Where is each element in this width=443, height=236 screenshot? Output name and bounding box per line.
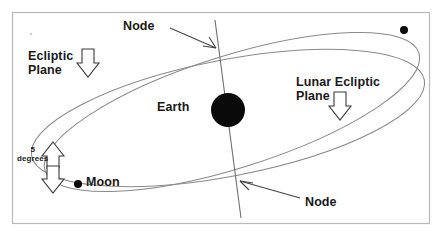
- moon-body: [74, 180, 82, 188]
- label-lunar-ecliptic-plane: Lunar Ecliptic Plane: [296, 76, 380, 103]
- paper-speck: [30, 33, 33, 36]
- lunar-orbit-diagram: Node Node Ecliptic Plane Lunar Ecliptic …: [0, 0, 443, 236]
- diagram-canvas: [0, 0, 443, 236]
- label-ecliptic-plane: Ecliptic Plane: [28, 50, 73, 77]
- label-earth: Earth: [157, 101, 189, 115]
- orbit-marker-point: [400, 26, 408, 34]
- node-bottom-leader-arrowhead: [240, 181, 253, 190]
- label-inclination-degrees: 5 degrees: [17, 146, 48, 163]
- ecliptic-plane-arrow-icon: [77, 49, 99, 77]
- node-top-leader-arrowhead: [203, 37, 216, 48]
- earth-body: [211, 93, 245, 127]
- label-node-top: Node: [123, 20, 155, 34]
- label-moon: Moon: [86, 176, 120, 190]
- label-node-bottom: Node: [305, 196, 337, 210]
